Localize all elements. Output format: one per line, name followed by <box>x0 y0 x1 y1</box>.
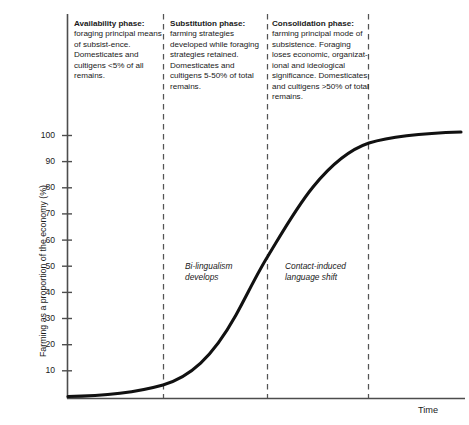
phase-body-consolidation: farming principal mode of subsistence. F… <box>272 29 369 101</box>
phase-title-consolidation: Consolidation phase: <box>272 19 354 28</box>
y-axis-title: Farming as a proportion of the economy (… <box>38 146 48 396</box>
annotation-bilingualism: Bi-lingualism develops <box>185 261 265 282</box>
phase-note-availability: Availability phase: foraging principal m… <box>74 19 166 82</box>
y-tick-label-100: 100 <box>33 131 55 140</box>
phase-title-availability: Availability phase: <box>74 19 144 28</box>
phase-title-substitution: Substitution phase: <box>170 19 245 28</box>
phase-body-substitution: farming strategies developed while forag… <box>170 29 259 90</box>
chart-figure: 100 90 80 70 60 50 40 30 20 10 Farming a… <box>0 0 469 425</box>
phase-body-availability: foraging principal means of subsist-ence… <box>74 29 162 80</box>
annotation-language-shift: Contact-induced language shift <box>285 261 371 282</box>
x-axis-title: Time <box>418 405 438 415</box>
phase-note-consolidation: Consolidation phase: farming principal m… <box>272 19 369 103</box>
phase-note-substitution: Substitution phase: farming strategies d… <box>170 19 264 92</box>
